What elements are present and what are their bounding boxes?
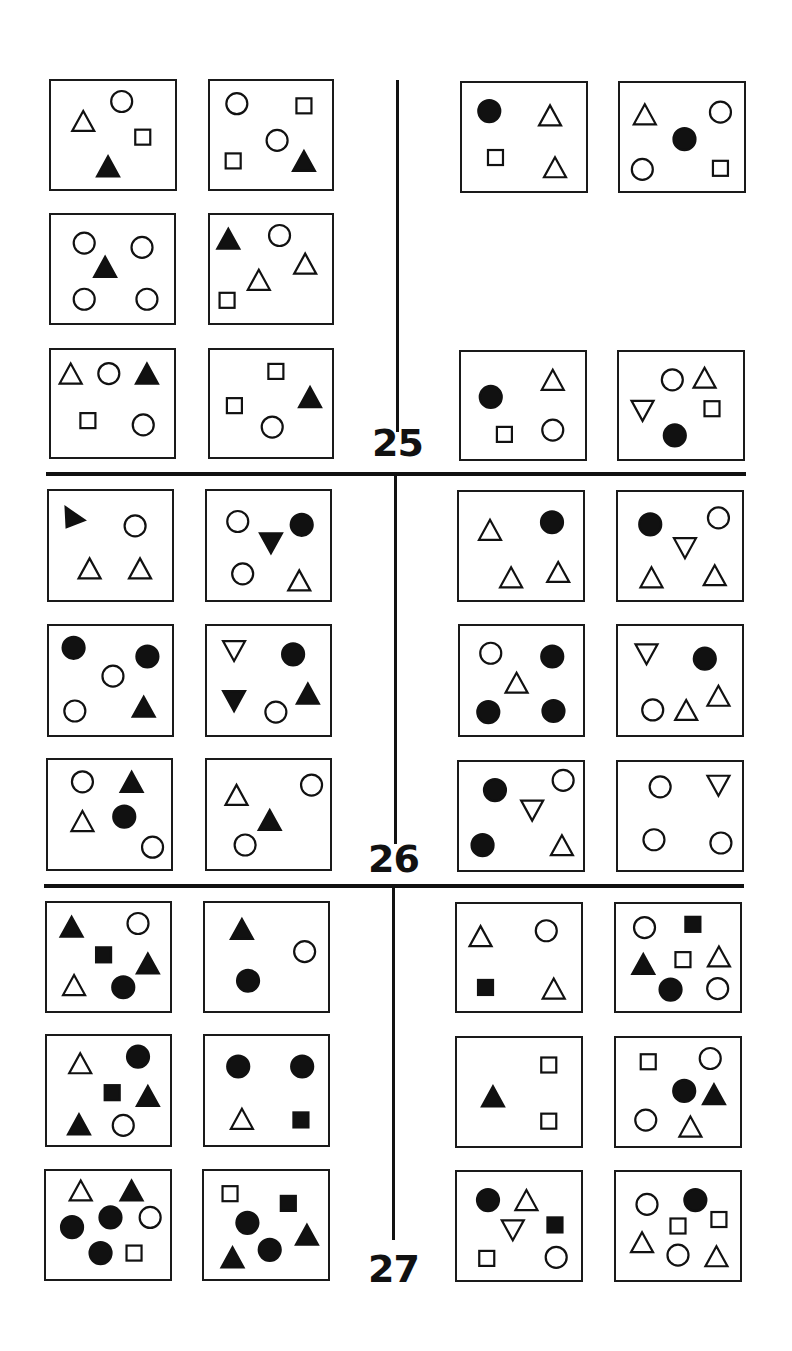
outline-square-icon bbox=[488, 150, 503, 165]
outline-triangle-icon bbox=[69, 1053, 91, 1073]
outline-triangle-down-icon bbox=[707, 776, 729, 796]
outline-circle-icon bbox=[480, 643, 501, 664]
outline-circle-icon bbox=[113, 1115, 134, 1136]
shape-card-figure bbox=[205, 1036, 328, 1145]
outline-circle-icon bbox=[111, 91, 132, 112]
filled-circle-icon bbox=[660, 979, 682, 1001]
outline-circle-icon bbox=[125, 515, 146, 536]
filled-triangle-icon bbox=[68, 1114, 90, 1134]
filled-triangle-icon bbox=[231, 919, 253, 939]
outline-square-icon bbox=[226, 153, 241, 168]
shape-card-figure bbox=[461, 352, 585, 459]
filled-triangle-icon bbox=[482, 1086, 504, 1106]
filled-circle-icon bbox=[99, 1206, 121, 1228]
shape-card bbox=[45, 901, 172, 1013]
filled-circle-icon bbox=[63, 637, 85, 659]
filled-circle-icon bbox=[291, 1056, 313, 1078]
outline-triangle-down-icon bbox=[674, 538, 696, 558]
outline-square-icon bbox=[227, 398, 242, 413]
outline-circle-icon bbox=[133, 414, 154, 435]
outline-triangle-icon bbox=[551, 835, 573, 855]
shape-card-figure bbox=[210, 350, 332, 457]
filled-circle-icon bbox=[673, 128, 695, 150]
shape-card bbox=[616, 490, 744, 602]
outline-circle-icon bbox=[710, 102, 731, 123]
shape-card-figure bbox=[51, 81, 175, 189]
filled-triangle-tilted-icon bbox=[66, 507, 85, 527]
filled-triangle-icon bbox=[137, 1086, 159, 1106]
shape-card bbox=[618, 81, 746, 193]
shape-card-figure bbox=[618, 626, 742, 735]
filled-circle-icon bbox=[694, 648, 716, 670]
shape-card bbox=[49, 348, 176, 459]
outline-square-icon bbox=[135, 130, 150, 145]
outline-triangle-icon bbox=[542, 370, 564, 390]
shape-card-figure bbox=[618, 492, 742, 600]
outline-triangle-icon bbox=[231, 1109, 253, 1129]
shape-card-figure bbox=[204, 1171, 328, 1279]
shape-card bbox=[460, 81, 588, 193]
shape-card-figure bbox=[619, 352, 743, 459]
outline-triangle-icon bbox=[675, 700, 697, 720]
outline-circle-icon bbox=[662, 369, 683, 390]
shape-card-figure bbox=[49, 626, 172, 735]
shape-card bbox=[616, 624, 744, 737]
outline-circle-icon bbox=[707, 978, 728, 999]
outline-circle-icon bbox=[632, 159, 653, 180]
shape-card-figure bbox=[207, 626, 330, 735]
shape-card bbox=[457, 490, 585, 602]
shape-card bbox=[208, 79, 334, 191]
outline-triangle-icon bbox=[72, 111, 94, 131]
outline-circle-icon bbox=[140, 1207, 161, 1228]
filled-circle-icon bbox=[61, 1216, 83, 1238]
problem-number: 26 bbox=[368, 840, 419, 878]
outline-circle-icon bbox=[98, 363, 119, 384]
outline-circle-icon bbox=[642, 699, 663, 720]
shape-card-figure bbox=[616, 904, 740, 1011]
filled-circle-icon bbox=[90, 1242, 112, 1264]
outline-circle-icon bbox=[637, 1194, 658, 1215]
filled-circle-icon bbox=[684, 1189, 706, 1211]
filled-triangle-icon bbox=[296, 1225, 318, 1245]
filled-circle-icon bbox=[237, 970, 259, 992]
shape-card-figure bbox=[459, 762, 583, 870]
shape-card-figure bbox=[459, 492, 583, 600]
outline-circle-icon bbox=[553, 770, 574, 791]
outline-circle-icon bbox=[102, 666, 123, 687]
filled-circle-icon bbox=[282, 643, 304, 665]
shape-card bbox=[46, 758, 173, 871]
outline-triangle-icon bbox=[71, 811, 93, 831]
outline-triangle-icon bbox=[294, 254, 316, 274]
outline-circle-icon bbox=[265, 702, 286, 723]
filled-triangle-icon bbox=[136, 364, 158, 384]
filled-square-icon bbox=[478, 980, 493, 995]
filled-triangle-icon bbox=[94, 257, 116, 277]
shape-card bbox=[455, 1170, 583, 1282]
shape-card-figure bbox=[616, 1172, 740, 1280]
outline-circle-icon bbox=[142, 837, 163, 858]
shape-card-figure bbox=[51, 350, 174, 457]
shape-card-figure bbox=[207, 760, 330, 869]
outline-circle-icon bbox=[536, 920, 557, 941]
shape-card-figure bbox=[618, 762, 742, 870]
filled-triangle-icon bbox=[121, 772, 143, 792]
outline-triangle-down-icon bbox=[632, 401, 654, 421]
shape-card-figure bbox=[47, 1036, 170, 1145]
shape-card-figure bbox=[46, 1171, 170, 1279]
outline-circle-icon bbox=[546, 1247, 567, 1268]
filled-triangle-icon bbox=[632, 954, 654, 974]
outline-circle-icon bbox=[643, 829, 664, 850]
outline-triangle-icon bbox=[704, 565, 726, 585]
shape-card bbox=[208, 348, 334, 459]
filled-triangle-down-icon bbox=[223, 691, 245, 711]
shape-card bbox=[47, 489, 174, 602]
filled-square-icon bbox=[96, 947, 111, 962]
outline-triangle-icon bbox=[60, 364, 82, 384]
outline-circle-icon bbox=[72, 771, 93, 792]
outline-circle-icon bbox=[128, 913, 149, 934]
shape-card bbox=[614, 902, 742, 1013]
filled-circle-icon bbox=[136, 646, 158, 668]
shape-card bbox=[458, 624, 585, 737]
filled-circle-icon bbox=[541, 511, 563, 533]
outline-triangle-icon bbox=[470, 926, 492, 946]
